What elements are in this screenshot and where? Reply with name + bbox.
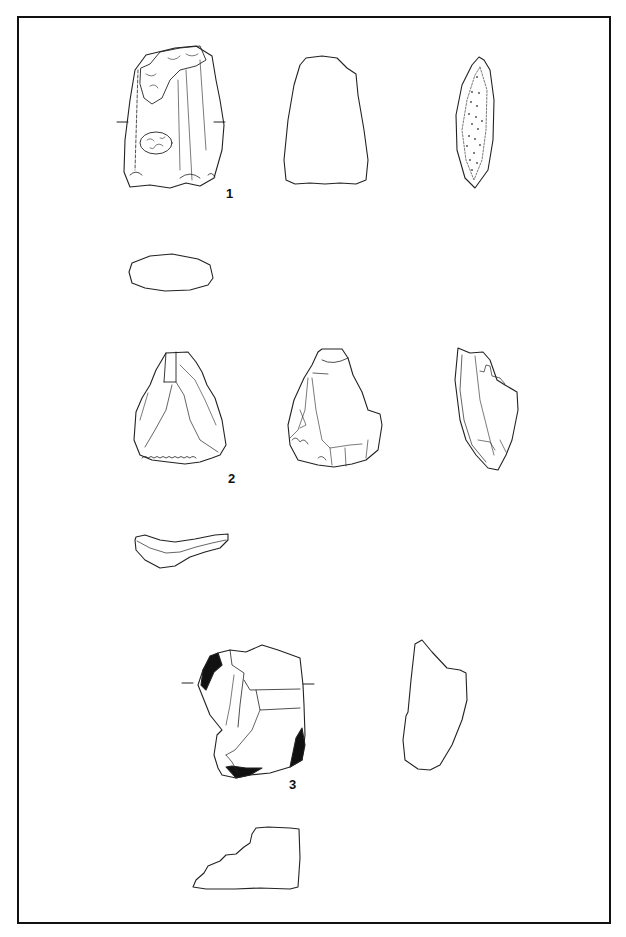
artifact-plate: 1 2 (0, 0, 626, 937)
figure-2-cross-section (135, 534, 228, 568)
figure-1-dorsal-view (117, 46, 225, 188)
figure-2-lateral-view (455, 348, 518, 470)
figure-2-ventral-view (288, 349, 382, 467)
figure-3-label: 3 (289, 777, 296, 792)
figure-1-profile-outline (284, 56, 368, 184)
figure-3-dorsal-view (182, 645, 314, 778)
figure-2-dorsal-view (134, 352, 226, 464)
figure-1-lateral-section (456, 57, 494, 188)
figure-3-cross-section (193, 827, 300, 889)
figure-1-cross-section (129, 254, 213, 291)
figure-3-lateral-outline (403, 640, 467, 770)
figure-1-label: 1 (226, 186, 233, 201)
figure-2-label: 2 (228, 471, 235, 486)
